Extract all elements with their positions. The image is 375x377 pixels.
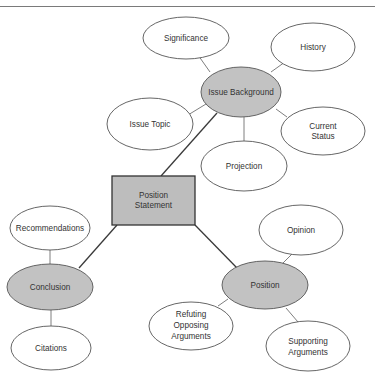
node-position[interactable]: Position: [222, 261, 308, 309]
edge-issue-background-issue-topic: [188, 104, 206, 115]
edge-issue-background-current-status: [276, 109, 287, 117]
current-status-label-1: Current: [309, 122, 337, 131]
significance-label: Significance: [164, 34, 209, 43]
refuting-label-1: Refuting: [176, 310, 207, 319]
position-statement-label-2: Statement: [135, 201, 173, 210]
supporting-label-2: Arguments: [288, 348, 328, 357]
supporting-label-1: Supporting: [288, 337, 328, 346]
node-projection[interactable]: Projection: [201, 141, 287, 191]
opinion-label: Opinion: [287, 226, 316, 235]
node-recommendations[interactable]: Recommendations: [10, 206, 90, 250]
node-supporting-arguments[interactable]: Supporting Arguments: [266, 321, 350, 371]
history-label: History: [300, 43, 326, 52]
node-refuting-opposing-arguments[interactable]: Refuting Opposing Arguments: [149, 302, 233, 350]
citations-label: Citations: [35, 344, 67, 353]
concept-map: Significance History Issue Topic Current…: [0, 0, 375, 377]
node-current-status[interactable]: Current Status: [281, 107, 365, 155]
node-significance[interactable]: Significance: [143, 17, 229, 59]
node-position-statement[interactable]: Position Statement: [112, 176, 195, 225]
node-citations[interactable]: Citations: [11, 326, 91, 370]
projection-label: Projection: [226, 162, 263, 171]
edge-position-refuting: [218, 299, 228, 306]
current-status-label-2: Status: [311, 132, 334, 141]
edge-statement-position: [195, 225, 237, 268]
node-opinion[interactable]: Opinion: [259, 205, 343, 255]
node-issue-background[interactable]: Issue Background: [201, 67, 281, 117]
edge-position-supporting: [286, 308, 298, 322]
issue-topic-label: Issue Topic: [130, 120, 171, 129]
node-issue-topic[interactable]: Issue Topic: [107, 98, 193, 150]
conclusion-label: Conclusion: [30, 283, 71, 292]
recommendations-label: Recommendations: [16, 224, 84, 233]
position-statement-label-1: Position: [139, 191, 169, 200]
node-history[interactable]: History: [271, 23, 355, 71]
refuting-label-3: Arguments: [171, 332, 211, 341]
issue-background-label: Issue Background: [208, 88, 274, 97]
edge-position-opinion: [282, 254, 292, 264]
position-label: Position: [250, 281, 280, 290]
refuting-label-2: Opposing: [173, 321, 208, 330]
node-conclusion[interactable]: Conclusion: [7, 264, 93, 310]
